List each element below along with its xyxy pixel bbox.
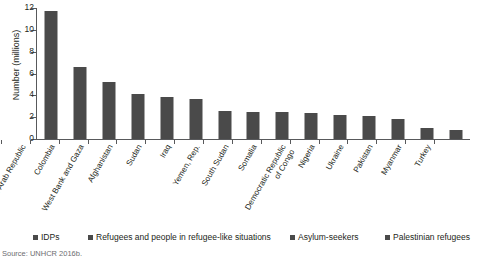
bar-chart-figure: Number (millions) 024681012 Syrian Arab …: [0, 0, 477, 258]
bar: [276, 112, 289, 139]
bar-slot: [210, 8, 239, 139]
bar: [103, 82, 116, 139]
plot-area: 024681012: [36, 8, 470, 140]
bar-slot: [239, 8, 268, 139]
x-tick-mark: [434, 140, 435, 144]
bar-slot: [124, 8, 153, 139]
legend-label: Refugees and people in refugee-like situ…: [96, 231, 271, 243]
legend-swatch-icon: [33, 235, 38, 240]
y-axis-title: Number (millions): [11, 5, 21, 125]
bar: [420, 128, 433, 139]
legend-label: Palestinian refugees: [393, 231, 470, 243]
bar-slot: [152, 8, 181, 139]
bar: [189, 99, 202, 139]
bar-slot: [181, 8, 210, 139]
bar: [305, 113, 318, 139]
y-tick-label: 12: [25, 2, 34, 13]
bar-slot: [412, 8, 441, 139]
bar: [74, 67, 87, 139]
legend-swatch-icon: [290, 235, 295, 240]
bar-slot: [355, 8, 384, 139]
bar-slot: [66, 8, 95, 139]
bar: [391, 119, 404, 139]
legend-item[interactable]: Palestinian refugees: [385, 231, 470, 243]
bar-slot: [326, 8, 355, 139]
y-tick-label: 10: [25, 24, 34, 35]
legend-item[interactable]: Asylum-seekers: [290, 231, 358, 243]
bar-slot: [268, 8, 297, 139]
legend-label: Asylum-seekers: [298, 231, 358, 243]
chart-legend: IDPsRefugees and people in refugee-like …: [0, 231, 477, 245]
bar: [449, 130, 462, 139]
y-tick-label: 6: [29, 68, 34, 79]
y-tick-label: 8: [29, 46, 34, 57]
bar: [362, 116, 375, 139]
bar-slot: [441, 8, 470, 139]
bar: [160, 97, 173, 139]
x-axis-labels: Syrian Arab RepublicColombiaWest Bank an…: [1, 143, 434, 223]
legend-item[interactable]: Refugees and people in refugee-like situ…: [88, 231, 271, 243]
bar: [45, 11, 58, 139]
bar-slot: [95, 8, 124, 139]
bar: [247, 112, 260, 139]
bar: [218, 111, 231, 139]
source-note: Source: UNHCR 2016b.: [2, 249, 82, 258]
y-tick-label: 2: [29, 111, 34, 122]
legend-swatch-icon: [385, 235, 390, 240]
bar-series-idps: [37, 8, 470, 139]
bar: [334, 115, 347, 139]
bar-slot: [297, 8, 326, 139]
bar: [132, 94, 145, 139]
legend-swatch-icon: [88, 235, 93, 240]
legend-label: IDPs: [41, 231, 59, 243]
bar-slot: [37, 8, 66, 139]
bar-slot: [383, 8, 412, 139]
y-tick-label: 4: [29, 89, 34, 100]
legend-item[interactable]: IDPs: [33, 231, 59, 243]
